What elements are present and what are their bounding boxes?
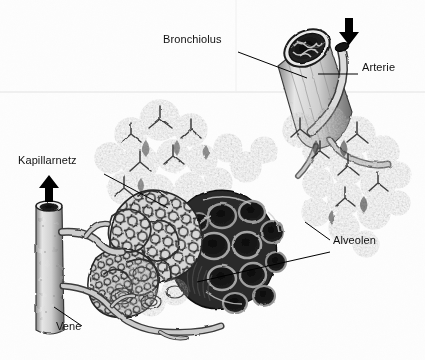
label-kapillarnetz: Kapillarnetz	[18, 154, 77, 166]
illustration-canvas	[0, 0, 425, 360]
anatomical-figure: Bronchiolus Arterie Kapillarnetz Alveole…	[0, 0, 425, 360]
label-bronchiolus: Bronchiolus	[163, 33, 222, 45]
label-vene: Vene	[56, 320, 81, 332]
label-arterie: Arterie	[362, 61, 395, 73]
label-alveolen: Alveolen	[333, 234, 376, 246]
